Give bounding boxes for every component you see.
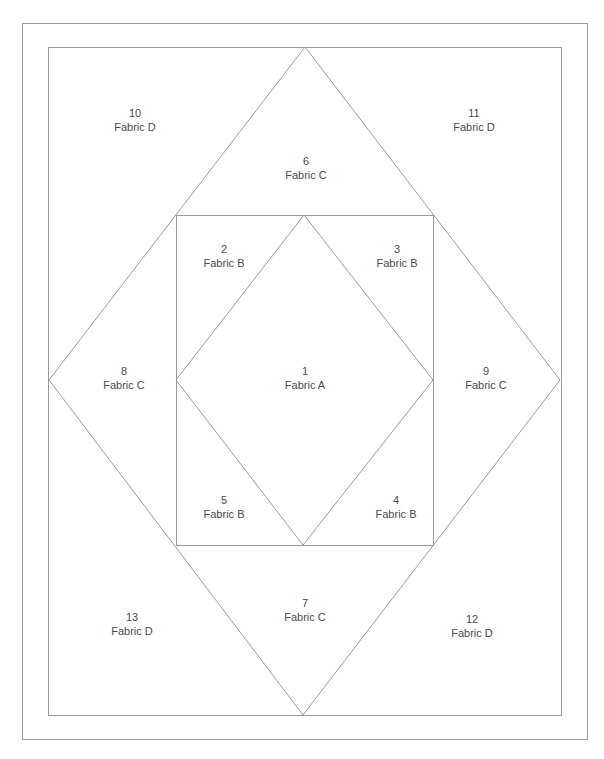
piece-number: 4 — [376, 493, 417, 507]
piece-number: 7 — [284, 596, 326, 610]
piece-fabric: Fabric B — [204, 256, 245, 270]
piece-label-6: 6Fabric C — [285, 154, 327, 182]
piece-label-12: 12Fabric D — [451, 612, 493, 640]
piece-label-2: 2Fabric B — [204, 242, 245, 270]
piece-label-1: 1Fabric A — [285, 364, 325, 392]
piece-number: 6 — [285, 154, 327, 168]
piece-fabric: Fabric C — [103, 378, 145, 392]
piece-number: 10 — [114, 106, 156, 120]
quilt-block-diagram: 1Fabric A 2Fabric B 3Fabric B 4Fabric B … — [0, 0, 604, 759]
piece-fabric: Fabric B — [204, 507, 245, 521]
piece-label-11: 11Fabric D — [453, 106, 495, 134]
piece-number: 1 — [285, 364, 325, 378]
piece-fabric: Fabric A — [285, 378, 325, 392]
piece-label-13: 13Fabric D — [111, 610, 153, 638]
piece-label-3: 3Fabric B — [377, 242, 418, 270]
piece-label-4: 4Fabric B — [376, 493, 417, 521]
piece-fabric: Fabric D — [453, 120, 495, 134]
piece-label-8: 8Fabric C — [103, 364, 145, 392]
piece-number: 8 — [103, 364, 145, 378]
piece-fabric: Fabric D — [114, 120, 156, 134]
piece-fabric: Fabric D — [111, 624, 153, 638]
piece-label-10: 10Fabric D — [114, 106, 156, 134]
piece-label-5: 5Fabric B — [204, 493, 245, 521]
piece-fabric: Fabric C — [285, 168, 327, 182]
piece-number: 3 — [377, 242, 418, 256]
piece-fabric: Fabric C — [284, 610, 326, 624]
piece-number: 11 — [453, 106, 495, 120]
piece-number: 12 — [451, 612, 493, 626]
piece-fabric: Fabric B — [376, 507, 417, 521]
piece-number: 9 — [465, 364, 507, 378]
piece-label-7: 7Fabric C — [284, 596, 326, 624]
piece-fabric: Fabric B — [377, 256, 418, 270]
piece-fabric: Fabric D — [451, 626, 493, 640]
piece-number: 2 — [204, 242, 245, 256]
piece-number: 13 — [111, 610, 153, 624]
piece-label-9: 9Fabric C — [465, 364, 507, 392]
piece-number: 5 — [204, 493, 245, 507]
piece-fabric: Fabric C — [465, 378, 507, 392]
